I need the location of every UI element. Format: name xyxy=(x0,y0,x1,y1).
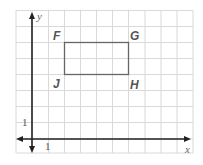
x-unit-label: 1 xyxy=(45,140,51,152)
y-unit-label: 1 xyxy=(22,116,28,128)
y-axis-label: y xyxy=(36,10,42,22)
y-axis-down-arrow-icon xyxy=(29,146,35,153)
vertex-label-G: G xyxy=(130,29,139,43)
y-axis xyxy=(29,12,35,153)
y-axis-up-arrow-icon xyxy=(29,12,35,19)
grid xyxy=(16,10,193,153)
x-axis xyxy=(16,136,191,142)
vertex-label-F: F xyxy=(53,29,61,43)
x-axis-label: x xyxy=(184,143,190,155)
x-axis-left-arrow-icon xyxy=(16,136,23,142)
vertex-label-J: J xyxy=(53,77,60,91)
coordinate-plane: y x 1 1 F G H J xyxy=(0,0,203,165)
x-axis-right-arrow-icon xyxy=(184,136,191,142)
vertex-label-H: H xyxy=(130,78,139,92)
